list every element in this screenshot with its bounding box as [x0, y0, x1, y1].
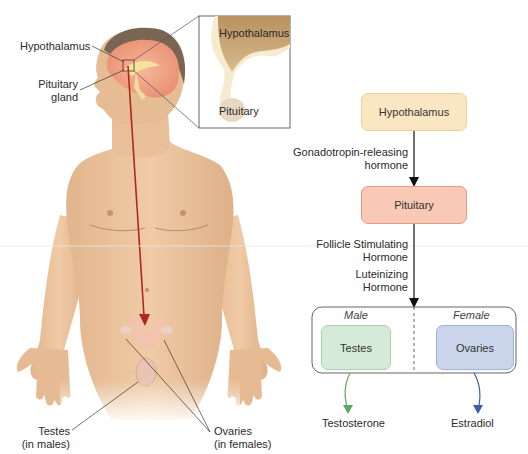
- testes-label-line1: Testes: [14, 425, 70, 438]
- node-hypothalamus: Hypothalamus: [361, 93, 467, 131]
- lh-label-line1: Luteinizing: [320, 268, 408, 281]
- pituitary-gland-label: Pituitary gland: [30, 78, 78, 104]
- ovaries-label-line1: Ovaries: [214, 425, 271, 438]
- node-ovaries: Ovaries: [436, 325, 514, 370]
- anatomy-illustration: [0, 0, 528, 454]
- testes-anatomy-label: Testes (in males): [14, 425, 70, 451]
- output-testosterone: Testosterone: [322, 417, 385, 430]
- output-estradiol: Estradiol: [451, 417, 494, 430]
- lh-label-line2: Hormone: [320, 281, 408, 294]
- node-testes: Testes: [321, 325, 391, 370]
- testes-label-line2: (in males): [14, 438, 70, 451]
- gnrh-label: Gonadotropin-releasing hormone: [280, 146, 408, 172]
- node-pituitary: Pituitary: [361, 186, 467, 224]
- fsh-label-line1: Follicle Stimulating: [300, 238, 408, 251]
- group-female-label: Female: [453, 309, 490, 321]
- lh-label: Luteinizing Hormone: [320, 268, 408, 294]
- hypothalamus-label: Hypothalamus: [20, 40, 90, 53]
- fsh-label-line2: Hormone: [300, 251, 408, 264]
- testosterone-arrow: [345, 373, 350, 410]
- group-male-label: Male: [344, 309, 368, 321]
- inset-hypothalamus-label: Hypothalamus: [219, 27, 289, 40]
- ovaries-label-line2: (in females): [214, 438, 271, 451]
- pituitary-label-line1: Pituitary: [30, 78, 78, 91]
- gnrh-label-line2: hormone: [280, 159, 408, 172]
- estradiol-arrow: [474, 373, 480, 410]
- ovaries-anatomy-label: Ovaries (in females): [214, 425, 271, 451]
- pituitary-label-line2: gland: [30, 91, 78, 104]
- fsh-label: Follicle Stimulating Hormone: [300, 238, 408, 264]
- inset-pituitary-label: Pituitary: [219, 105, 259, 118]
- gnrh-label-line1: Gonadotropin-releasing: [280, 146, 408, 159]
